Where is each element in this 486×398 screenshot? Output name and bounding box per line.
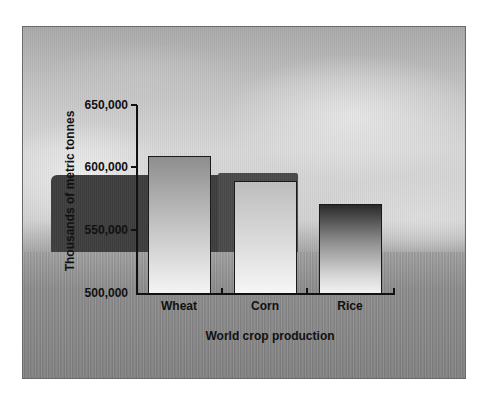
bar-corn [234,181,297,294]
x-tick-2 [306,288,308,294]
x-label-corn: Corn [225,299,305,313]
y-tick-label-500000: 500,000 [56,286,128,300]
y-tick-label-600000: 600,000 [56,160,128,174]
x-tick-3 [393,288,395,294]
bar-wheat [148,156,211,294]
bar-rice [319,204,382,294]
y-axis-title: Thousands of metric tonnes [63,101,77,281]
x-tick-1 [221,288,223,294]
y-tick-label-550000: 550,000 [56,223,128,237]
x-axis-line [136,293,395,295]
y-tick-label-650000: 650,000 [56,98,128,112]
y-axis-line [136,105,138,294]
x-axis-title: World crop production [170,329,370,343]
x-label-rice: Rice [310,299,390,313]
x-label-wheat: Wheat [139,299,219,313]
